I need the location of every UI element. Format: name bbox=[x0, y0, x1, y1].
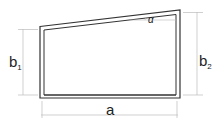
frame-inner bbox=[44, 15, 176, 96]
label-b1: b1 bbox=[9, 53, 22, 72]
angle-arc bbox=[145, 18, 146, 21]
label-b2: b2 bbox=[199, 52, 212, 71]
label-a: a bbox=[106, 101, 115, 118]
trapezoid-diagram: b1 b2 a α bbox=[0, 0, 217, 123]
dimension-b1 bbox=[18, 29, 38, 95]
frame-outer bbox=[40, 10, 180, 98]
label-alpha: α bbox=[148, 14, 154, 25]
